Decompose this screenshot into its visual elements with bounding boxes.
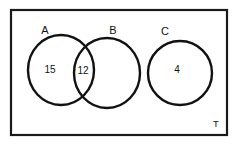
region-value-a-only: 15 [44, 64, 56, 75]
venn-diagram-canvas: A B C 15 12 4 T [0, 0, 236, 145]
region-value-c-only: 4 [174, 64, 180, 75]
set-label-c: C [161, 25, 169, 37]
set-label-a: A [41, 24, 49, 36]
universal-set-label: T [213, 118, 219, 129]
set-label-b: B [109, 24, 116, 36]
region-value-a-intersect-b: 12 [77, 65, 89, 76]
venn-diagram-container: A B C 15 12 4 T [0, 0, 236, 145]
